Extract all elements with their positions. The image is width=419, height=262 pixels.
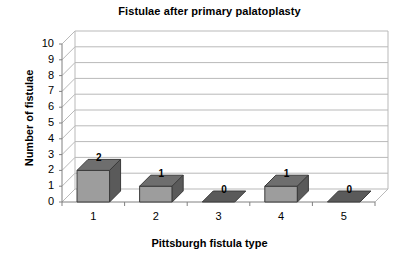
- bar-value-label: 2: [84, 152, 114, 163]
- y-tick-label: 1: [32, 179, 54, 191]
- chart-container: Fistulae after primary palatoplasty Numb…: [0, 0, 419, 262]
- x-tick-label: 5: [324, 210, 364, 222]
- bar-value-label: 1: [146, 168, 176, 179]
- bar-value-label: 0: [334, 184, 364, 195]
- y-tick-label: 4: [32, 132, 54, 144]
- bar-value-label: 1: [272, 168, 302, 179]
- y-tick-label: 0: [32, 195, 54, 207]
- plot-area: [0, 0, 419, 262]
- y-tick-label: 3: [32, 148, 54, 160]
- x-tick-label: 3: [199, 210, 239, 222]
- bar-value-label: 0: [209, 184, 239, 195]
- bar-4: [265, 175, 309, 202]
- x-tick-label: 4: [261, 210, 301, 222]
- y-tick-label: 9: [32, 53, 54, 65]
- x-tick-label: 2: [136, 210, 176, 222]
- y-tick-label: 7: [32, 84, 54, 96]
- y-tick-label: 5: [32, 116, 54, 128]
- bar-2: [140, 175, 184, 202]
- y-tick-label: 6: [32, 100, 54, 112]
- x-tick-label: 1: [73, 210, 113, 222]
- y-tick-label: 2: [32, 163, 54, 175]
- bar-1: [77, 159, 121, 202]
- y-tick-label: 8: [32, 69, 54, 81]
- y-tick-label: 10: [32, 37, 54, 49]
